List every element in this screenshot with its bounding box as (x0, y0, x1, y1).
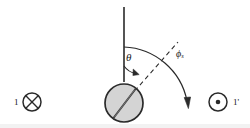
physics-diagram (0, 0, 250, 128)
bottom-edge-band (0, 124, 250, 128)
theta-arc-arrowhead (133, 69, 139, 76)
out-of-page-dot (216, 100, 221, 105)
figure-canvas: θ ϕs 1 1' (0, 0, 250, 128)
theta-angle-label: θ (126, 52, 131, 63)
phi-arc-arrowhead (184, 97, 190, 109)
phi-subscript: s (181, 52, 184, 59)
left-wire-label: 1 (14, 98, 19, 107)
phi-angle-label: ϕs (176, 49, 184, 60)
right-wire-label: 1' (233, 98, 239, 107)
